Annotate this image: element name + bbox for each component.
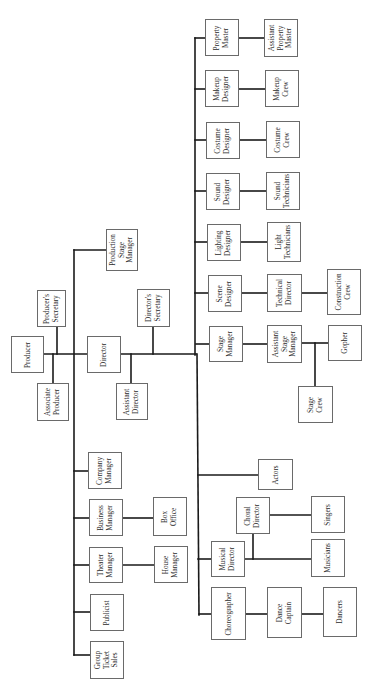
node-label: Lighting Designer: [215, 230, 232, 256]
node-lighting-designer: Lighting Designer: [207, 224, 241, 261]
node-directors-secretary: Director's Secretary: [137, 289, 170, 327]
node-label: Assistant Stage Manager: [272, 331, 298, 357]
node-label: House Manager: [162, 552, 179, 578]
node-label: Sound Technicians: [274, 174, 291, 208]
node-property-master: Property Master: [205, 19, 239, 56]
node-label: Assistant Property Master: [268, 25, 294, 51]
node-box-office: Box Office: [153, 497, 187, 536]
node-label: Company Manager: [96, 457, 113, 485]
node-makeup-designer: Makeup Designer: [205, 70, 239, 107]
node-label: Choreographer: [224, 592, 233, 635]
node-house-manager: House Manager: [154, 546, 188, 583]
node-light-technicians: Light Technicians: [267, 222, 301, 262]
node-label: Dance Captain: [276, 601, 293, 623]
node-label: Producer's Secretary: [43, 293, 60, 323]
node-label: Theater Manager: [97, 552, 114, 578]
node-label: Choral Director: [244, 504, 261, 528]
node-sound-technicians: Sound Technicians: [266, 172, 300, 210]
node-producer: Producer: [11, 336, 44, 373]
node-label: Stage Crew: [307, 397, 324, 413]
node-label: Assistant Director: [123, 388, 140, 414]
node-associate-producer: Associate Producer: [37, 383, 69, 421]
node-costume-crew: Costume Crew: [266, 121, 300, 158]
node-label: Musicians: [324, 543, 333, 573]
node-label: Light Technicians: [275, 225, 292, 259]
node-label: Stage Manager: [217, 331, 234, 357]
node-label: Publicist: [103, 600, 112, 625]
node-theater-manager: Theater Manager: [89, 547, 123, 583]
node-scene-designer: Scene Designer: [208, 275, 242, 312]
node-label: Costume Designer: [214, 128, 231, 154]
node-label: Musical Director: [219, 547, 236, 571]
node-label: Scene Designer: [216, 281, 233, 307]
node-label: Director's Secretary: [145, 294, 162, 322]
node-gopher: Gopher: [328, 325, 362, 361]
node-label: Group Ticket Sales: [94, 651, 120, 669]
node-sound-designer: Sound Designer: [206, 173, 240, 210]
connector-line: [197, 354, 199, 615]
node-director: Director: [87, 336, 121, 373]
node-label: Producer: [23, 342, 32, 368]
node-choreographer: Choreographer: [211, 587, 246, 640]
node-label: Dancers: [336, 600, 345, 624]
node-assistant-director: Assistant Director: [116, 383, 148, 420]
node-label: Singers: [324, 504, 333, 526]
node-dance-captain: Dance Captain: [267, 587, 302, 638]
node-construction-crew: Construction Crew: [327, 269, 361, 315]
node-label: Gopher: [341, 332, 350, 354]
node-label: Director: [100, 343, 109, 367]
node-label: Sound Designer: [214, 179, 231, 205]
node-dancers: Dancers: [323, 587, 357, 637]
node-costume-designer: Costume Designer: [206, 122, 240, 159]
node-label: Construction Crew: [335, 273, 352, 310]
node-label: Associate Producer: [44, 388, 61, 416]
node-label: Business Manager: [97, 505, 114, 531]
node-group-ticket-sales: Group Ticket Sales: [90, 641, 124, 679]
node-company-manager: Company Manager: [88, 452, 122, 489]
node-stage-manager: Stage Manager: [209, 326, 243, 362]
node-production-stage-manager: Production Stage Manager: [106, 229, 138, 271]
node-musical-director: Musical Director: [211, 541, 245, 577]
node-singers: Singers: [311, 496, 345, 533]
node-choral-director: Choral Director: [236, 497, 270, 534]
node-technical-director: Technical Director: [267, 274, 302, 312]
node-musicians: Musicians: [311, 539, 345, 577]
node-producers-secretary: Producer's Secretary: [37, 290, 66, 327]
node-business-manager: Business Manager: [89, 499, 123, 536]
node-makeup-crew: Makeup Crew: [265, 70, 299, 107]
node-label: Makeup Designer: [213, 76, 230, 102]
node-actors: Actors: [258, 459, 293, 490]
node-label: Makeup Crew: [273, 77, 290, 101]
node-assistant-stage-manager: Assistant Stage Manager: [267, 325, 302, 363]
node-assistant-property-master: Assistant Property Master: [264, 19, 298, 57]
node-label: Box Office: [161, 507, 178, 525]
node-label: Actors: [271, 465, 280, 484]
node-label: Costume Crew: [274, 127, 291, 153]
node-stage-crew: Stage Crew: [298, 386, 333, 423]
node-label: Production Stage Manager: [109, 234, 135, 266]
node-publicist: Publicist: [90, 594, 124, 631]
node-label: Technical Director: [276, 279, 293, 307]
node-label: Property Master: [213, 25, 230, 50]
